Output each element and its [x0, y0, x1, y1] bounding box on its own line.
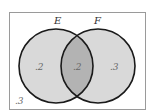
e-only-value: .2: [35, 62, 44, 72]
intersection-value: .2: [73, 62, 82, 72]
set-e-label: E: [53, 15, 62, 26]
venn-diagram: E F .2 .2 .3 .3: [0, 0, 155, 112]
set-f-label: F: [93, 15, 102, 26]
f-only-value: .3: [110, 62, 119, 72]
outside-value: .3: [15, 96, 24, 106]
